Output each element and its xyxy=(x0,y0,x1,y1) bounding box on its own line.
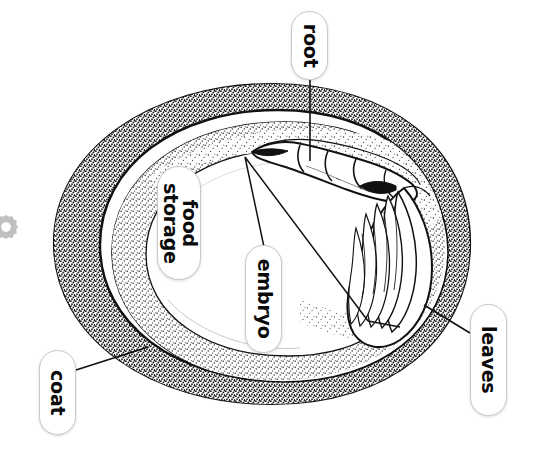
label-embryo[interactable]: embryo xyxy=(245,245,282,353)
label-leaves-text: leaves xyxy=(479,326,498,394)
diagram-canvas: root food storage embryo leaves coat xyxy=(0,0,543,455)
label-coat[interactable]: coat xyxy=(39,350,76,435)
label-food-storage-text: food storage xyxy=(160,183,199,264)
label-root[interactable]: root xyxy=(291,11,328,80)
label-food-storage[interactable]: food storage xyxy=(157,166,201,280)
gear-icon[interactable] xyxy=(0,211,21,243)
label-root-text: root xyxy=(300,24,319,68)
label-coat-text: coat xyxy=(48,370,67,415)
label-embryo-text: embryo xyxy=(254,259,273,339)
seed-illustration xyxy=(0,0,543,455)
label-leaves[interactable]: leaves xyxy=(470,304,507,416)
